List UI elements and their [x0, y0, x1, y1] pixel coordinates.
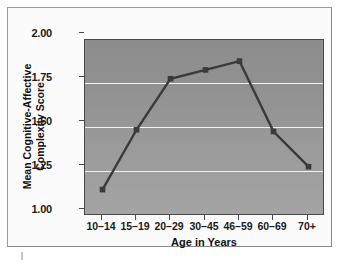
y-tick-mark-2-00 [79, 32, 84, 33]
data-point-marker [203, 67, 209, 73]
y-axis-title-line-1: Mean Cognitive-Affective [21, 64, 33, 189]
data-point-marker [237, 58, 243, 64]
data-series-line [85, 40, 324, 215]
figure-frame: 2.00 1.75 1.50 1.25 1.00 10–14 [7, 7, 332, 247]
figure-container: 2.00 1.75 1.50 1.25 1.00 10–14 [0, 0, 350, 265]
plot-area [84, 39, 324, 215]
x-axis-title: Age in Years [84, 236, 324, 248]
data-point-marker [271, 129, 277, 135]
data-point-marker [134, 127, 140, 133]
y-axis-title: Mean Cognitive-Affective Complexity Scor… [21, 39, 46, 215]
data-point-marker [100, 187, 106, 193]
scan-artifact-mark [21, 252, 23, 260]
y-tick-label-2-00: 2.00 [12, 27, 52, 39]
y-axis-title-line-2: Complexity Score [33, 82, 45, 171]
data-point-marker [168, 76, 174, 82]
data-point-marker [306, 164, 312, 170]
x-tick-label-70-plus: 70+ [280, 220, 334, 232]
